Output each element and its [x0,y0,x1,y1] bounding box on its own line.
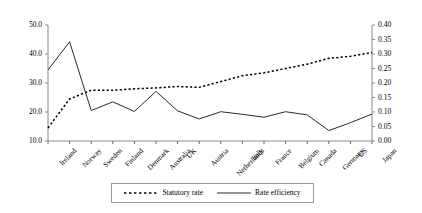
right-axis-tick-label: 0.30 [378,50,391,58]
left-axis-tick-label: 50.0 [8,21,42,29]
legend-label-statutory-rate: Statutory rate [162,189,203,197]
right-axis-tick-label: 0.00 [378,137,391,145]
legend-label-rate-efficiency: Rate efficiency [255,189,300,197]
right-axis-tick-label: 0.10 [378,108,391,116]
left-axis-tick-label: 10.0 [8,137,42,145]
category-axis [48,141,372,144]
chart-container: 10.020.030.040.050.0 0.000.050.100.150.2… [0,0,422,213]
legend-item-statutory-rate: Statutory rate [124,189,203,197]
right-axis-tick-label: 0.20 [378,79,391,87]
right-axis-tick-label: 0.15 [378,94,391,102]
left-axis-tick-label: 40.0 [8,50,42,58]
legend-solid-line-icon [217,190,251,196]
right-axis-tick-label: 0.05 [378,123,391,131]
series-line-statutory-rate [48,53,372,128]
right-axis-tick-label: 0.25 [378,65,391,73]
right-axis-tick-label: 0.40 [378,21,391,29]
series-line-rate-efficiency [48,42,372,131]
left-axis-tick-label: 30.0 [8,79,42,87]
plot-area [0,0,422,213]
legend-item-rate-efficiency: Rate efficiency [217,189,300,197]
left-axis-tick-label: 20.0 [8,108,42,116]
left-axis [45,25,48,141]
legend-dotted-line-icon [124,190,158,196]
chart-legend: Statutory rate Rate efficiency [111,183,314,203]
right-axis-tick-label: 0.35 [378,36,391,44]
right-axis [372,25,375,141]
